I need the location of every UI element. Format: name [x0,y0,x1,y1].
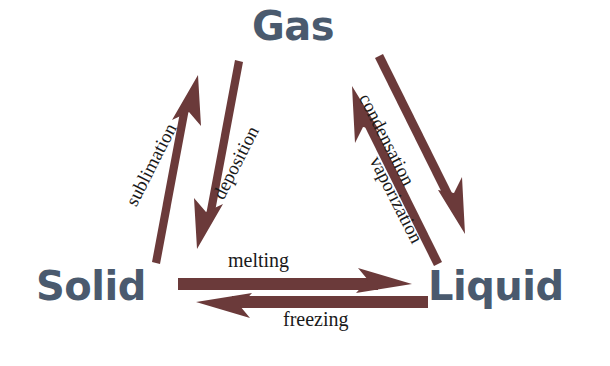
state-label-solid: Solid [36,266,146,306]
transition-label-freezing: freezing [283,309,349,329]
phase-change-diagram: Gas Solid Liquid sublimation deposition … [0,0,610,366]
transition-label-melting: melting [228,250,289,270]
state-label-liquid: Liquid [428,266,564,306]
state-label-gas: Gas [252,6,334,46]
melting-arrow [178,268,412,293]
